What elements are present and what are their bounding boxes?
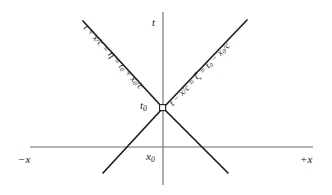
light-cone-figure: t −x +x t0 x0 t + x/c = η = t0 + x0/c t … bbox=[0, 0, 332, 195]
x0-label: x0 bbox=[146, 151, 155, 163]
x0-subscript: 0 bbox=[151, 155, 155, 164]
negative-x-axis-label: −x bbox=[18, 154, 30, 165]
event-vertex-marker bbox=[160, 105, 166, 111]
null-line-lower-right bbox=[164, 109, 228, 173]
t0-subscript: 0 bbox=[143, 104, 147, 113]
t-axis-label: t bbox=[152, 17, 155, 28]
t0-label: t0 bbox=[140, 100, 147, 112]
diagram-canvas bbox=[0, 0, 332, 195]
positive-x-axis-label: +x bbox=[300, 154, 312, 165]
